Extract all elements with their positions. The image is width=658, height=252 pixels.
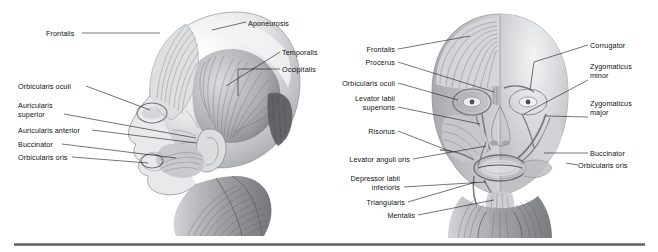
label-frontalis-lateral: Frontalis <box>46 29 74 38</box>
label-orbicularis-oris-frontal: Orbicularis oris <box>578 161 628 170</box>
label-levator-anguli-oris: Levator anguli oris <box>310 155 410 164</box>
label-corrugator: Corrugator <box>590 41 625 50</box>
frontal-head-illustration <box>432 14 568 238</box>
label-mentalis: Mentalis <box>315 211 415 220</box>
lateral-head-illustration <box>128 12 300 236</box>
label-auricularis-anterior: Auricularis anterior <box>18 126 80 135</box>
footer-divider <box>14 243 645 246</box>
label-orbicularis-oculi-frontal: Orbicularis oculi <box>295 79 395 88</box>
label-levator-labii-superioris: Levator labii superioris <box>295 94 395 112</box>
anatomy-figure: Frontalis Orbicularis oculi Auricularis … <box>0 0 658 252</box>
label-frontalis-frontal: Frontalis <box>295 45 395 54</box>
label-zygomaticus-major: Zygomaticus major <box>590 99 632 117</box>
label-procerus: Procerus <box>295 58 395 67</box>
label-aponeurosis: Aponeurosis <box>248 19 289 28</box>
label-buccinator-frontal: Buccinator <box>590 149 625 158</box>
label-triangularis: Triangularis <box>305 198 405 207</box>
label-risorius: Risorius <box>295 127 395 136</box>
label-orbicularis-oculi-lateral: Orbicularis oculi <box>18 82 71 91</box>
label-auricularis-superior: Auricularis superior <box>18 101 53 119</box>
label-depressor-labii-inferioris: Depressor labii inferioris <box>300 174 400 192</box>
label-zygomaticus-minor: Zygomaticus minor <box>590 62 632 80</box>
label-buccinator-lateral: Buccinator <box>18 140 53 149</box>
label-orbicularis-oris-lateral: Orbicularis oris <box>18 153 68 162</box>
